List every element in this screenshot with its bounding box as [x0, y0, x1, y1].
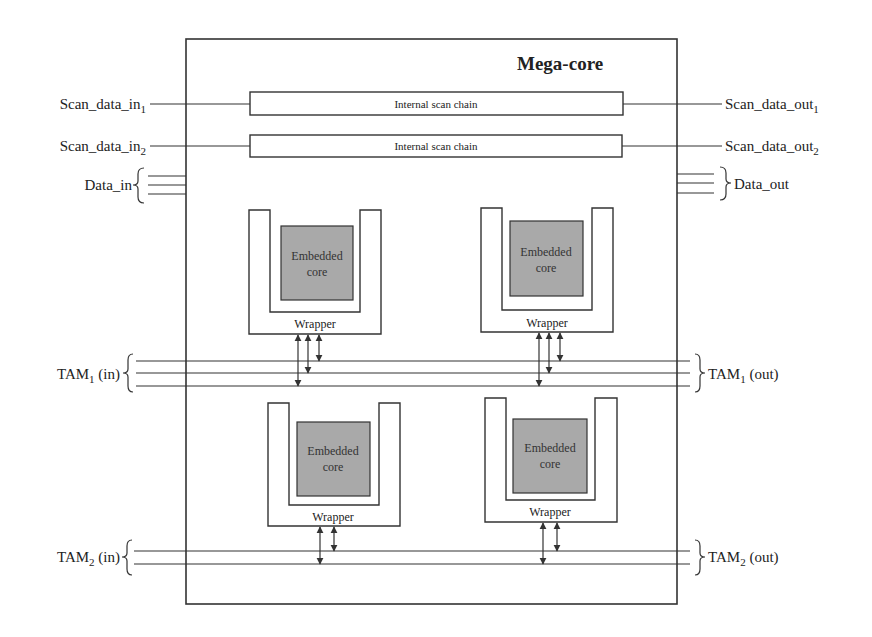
core-3-label: Embedded — [307, 444, 358, 458]
wrapper-2-label: Wrapper — [526, 316, 568, 330]
core-3-label-2: core — [323, 460, 344, 474]
mega-core-title: Mega-core — [517, 53, 603, 74]
wrapper-1-label: Wrapper — [294, 317, 336, 331]
core-2-label-2: core — [536, 261, 557, 275]
core-1-label-2: core — [307, 265, 328, 279]
core-1-label: Embedded — [291, 249, 342, 263]
mega-core-diagram: Mega-core Internal scan chain Scan_data_… — [0, 0, 872, 637]
tam1-in-brace — [123, 354, 133, 392]
tam1-in-label: TAM1 (in) — [57, 366, 120, 385]
tam2-out-brace — [695, 540, 705, 575]
wrapped-core-1: Embedded core Wrapper — [249, 210, 381, 386]
wrapped-core-3: Embedded core Wrapper — [268, 403, 400, 564]
tam2-out-label: TAM2 (out) — [708, 549, 779, 568]
tam2-in-brace — [122, 540, 132, 575]
wrapped-core-4: Embedded core Wrapper — [485, 398, 617, 564]
tam1-bus: TAM1 (in) TAM1 (out) — [57, 354, 779, 392]
scan-chain-1: Internal scan chain Scan_data_in1 Scan_d… — [60, 92, 819, 115]
data-in-label: Data_in — [85, 177, 133, 193]
tam1-out-brace — [695, 354, 705, 392]
wrapper-3-label: Wrapper — [312, 510, 354, 524]
tam2-in-label: TAM2 (in) — [57, 549, 120, 568]
data-in-brace — [133, 168, 144, 203]
scan-chain-2: Internal scan chain Scan_data_in2 Scan_d… — [60, 135, 819, 157]
embedded-core-3 — [297, 422, 370, 496]
core-2-label: Embedded — [520, 245, 571, 259]
scan-data-out-2-label: Scan_data_out2 — [725, 138, 819, 157]
data-out-label: Data_out — [734, 176, 790, 192]
scan-data-in-2-label: Scan_data_in2 — [60, 138, 146, 157]
tam2-bus: TAM2 (in) TAM2 (out) — [57, 540, 779, 575]
wrapped-core-2: Embedded core Wrapper — [481, 208, 613, 386]
core-4-label: Embedded — [524, 441, 575, 455]
scan-chain-2-label: Internal scan chain — [394, 140, 478, 152]
core-4-label-2: core — [540, 457, 561, 471]
data-out-brace — [720, 167, 731, 200]
data-in-bus: Data_in — [85, 168, 186, 203]
embedded-core-1 — [281, 226, 353, 300]
tam1-out-label: TAM1 (out) — [708, 366, 779, 385]
embedded-core-4 — [513, 419, 587, 493]
scan-chain-1-label: Internal scan chain — [394, 98, 478, 110]
data-out-bus: Data_out — [677, 167, 790, 200]
scan-data-in-1-label: Scan_data_in1 — [60, 96, 146, 115]
scan-data-out-1-label: Scan_data_out1 — [725, 96, 819, 115]
wrapper-4-label: Wrapper — [529, 505, 571, 519]
